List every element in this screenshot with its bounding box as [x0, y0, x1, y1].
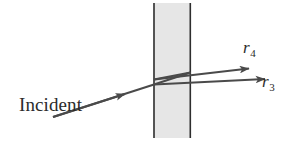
glass-slab: [154, 3, 191, 138]
ray-r4-label: r4: [243, 38, 256, 59]
ray-r3-label: r3: [262, 72, 275, 93]
ray-r3-symbol: r: [262, 72, 269, 91]
ray-r3-subscript: 3: [269, 81, 275, 93]
ray-r4-subscript: 4: [250, 47, 256, 59]
ray-r4-symbol: r: [243, 38, 250, 57]
incident-light-label-line1: Incident: [19, 94, 82, 115]
optics-figure: Incident light r4 r3: [0, 0, 297, 148]
incident-light-label: Incident light: [19, 51, 82, 148]
